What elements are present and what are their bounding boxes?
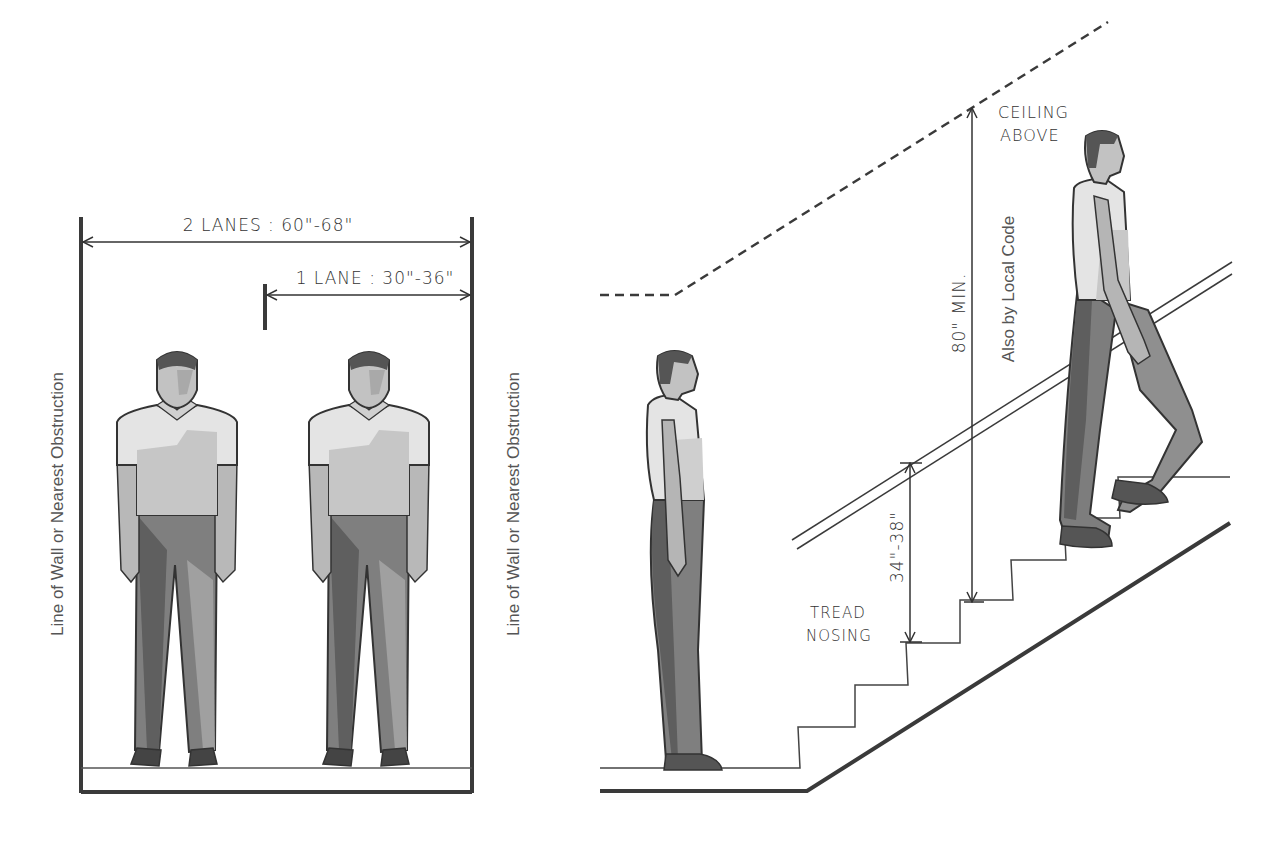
- one-lane-label: 1 LANE : 30"-36": [296, 268, 455, 288]
- handrail-height-label: 34"-38": [887, 511, 907, 583]
- wall-label-right: Line of Wall or Nearest Obstruction: [504, 372, 523, 636]
- two-lanes-label: 2 LANES : 60"-68": [183, 215, 354, 235]
- wall-label-left: Line of Wall or Nearest Obstruction: [48, 372, 67, 636]
- right-panel-stair-section: 80" MIN. Also by Local Code CEILING ABOV…: [600, 22, 1232, 791]
- standing-person-front-2: [309, 352, 429, 766]
- standing-person-front-1: [117, 352, 237, 766]
- nosing-label-line2: NOSING: [806, 627, 872, 645]
- standing-person-profile: [647, 351, 722, 770]
- ceiling-label-line2: ABOVE: [1000, 126, 1060, 145]
- climbing-person-profile: [1060, 131, 1202, 548]
- headroom-note: Also by Local Code: [999, 216, 1018, 362]
- left-panel-corridor-width: 2 LANES : 60"-68" 1 LANE : 30"-36" Line …: [48, 215, 523, 793]
- ceiling-line-dashed: [600, 22, 1108, 295]
- ceiling-label-line1: CEILING: [998, 103, 1069, 122]
- headroom-dim-label: 80" MIN.: [949, 273, 969, 354]
- nosing-label-line1: TREAD: [810, 604, 866, 622]
- stair-ergonomics-diagram: 2 LANES : 60"-68" 1 LANE : 30"-36" Line …: [0, 0, 1276, 843]
